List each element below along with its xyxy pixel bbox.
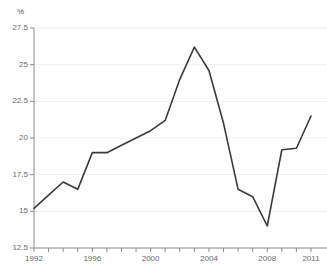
chart-container: % 12.51517.52022.52527.5 199219962000200… — [0, 0, 327, 272]
x-axis-tick-label: 2011 — [295, 254, 327, 263]
y-axis-tick-label: 20 — [4, 133, 28, 142]
y-axis-tick-label: 15 — [4, 206, 28, 215]
x-axis-tick-label: 2008 — [251, 254, 283, 263]
x-axis-tick-label: 1996 — [76, 254, 108, 263]
y-axis-ticks-group — [30, 28, 34, 248]
y-axis-tick-label: 17.5 — [4, 170, 28, 179]
x-axis-ticks-group — [34, 248, 311, 252]
x-axis-tick-label: 2000 — [135, 254, 167, 263]
line-chart-plot — [0, 0, 327, 272]
y-axis-tick-label: 12.5 — [4, 243, 28, 252]
gridlines-group — [34, 28, 327, 248]
data-series-line — [34, 47, 311, 226]
x-axis-tick-label: 1992 — [18, 254, 50, 263]
y-axis-tick-label: 27.5 — [4, 23, 28, 32]
x-axis-tick-label: 2004 — [193, 254, 225, 263]
y-axis-tick-label: 25 — [4, 60, 28, 69]
data-line-group — [34, 47, 311, 226]
y-axis-tick-label: 22.5 — [4, 96, 28, 105]
